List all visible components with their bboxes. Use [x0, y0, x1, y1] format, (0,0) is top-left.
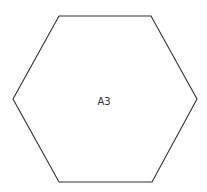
hexagon-label: A3 — [0, 96, 207, 107]
